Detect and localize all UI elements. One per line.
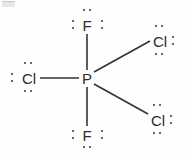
lone-pair-chlorine-top-right-below (155, 53, 164, 56)
lone-pair-chlorine-bottom-right-above (153, 104, 162, 107)
lone-pair-chlorine-bottom-right-right (170, 115, 173, 126)
lewis-structure-diagram: P F F Cl Cl Cl (0, 0, 188, 158)
atom-label-fluorine-bottom: F (81, 128, 93, 143)
atom-label-chlorine-left: Cl (20, 71, 38, 86)
atom-label-phosphorus: P (81, 71, 93, 86)
atom-label-fluorine-top: F (81, 18, 93, 33)
atom-label-chlorine-bottom-right: Cl (149, 113, 167, 128)
lone-pair-chlorine-left-below (24, 90, 33, 93)
lone-pair-fluorine-top-right (101, 20, 104, 31)
bond-p-cl-lower-right (94, 84, 148, 114)
lone-pair-chlorine-left-above (24, 62, 33, 65)
lone-pair-fluorine-bottom-left (72, 130, 75, 141)
lone-pair-fluorine-bottom-right (101, 130, 104, 141)
lone-pair-chlorine-top-right-right (172, 36, 175, 47)
lone-pair-fluorine-top-left (72, 20, 75, 31)
bond-p-cl-upper-right (94, 41, 150, 72)
lone-pair-chlorine-bottom-right-below (153, 132, 162, 135)
atom-label-chlorine-top-right: Cl (151, 34, 169, 49)
lone-pair-chlorine-top-right-above (155, 25, 164, 28)
lone-pair-fluorine-top-above (83, 9, 92, 12)
lone-pair-chlorine-left-left (11, 73, 14, 84)
lone-pair-fluorine-bottom-below (83, 146, 92, 149)
